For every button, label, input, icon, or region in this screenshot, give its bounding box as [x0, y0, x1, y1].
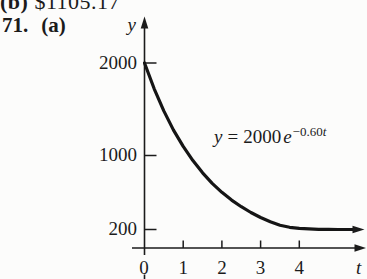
x-tick-label-0: 0: [139, 257, 149, 278]
equation-var: y: [212, 126, 223, 147]
equation-exponent-var: t: [323, 124, 327, 139]
equation-equals: =: [227, 126, 238, 147]
curve-arrow-icon: [353, 226, 365, 234]
x-axis-arrow-icon: [355, 244, 367, 252]
y-axis-label: y: [126, 14, 137, 35]
y-tick-label-200: 200: [109, 218, 138, 239]
x-axis-label: t: [356, 257, 362, 278]
y-axis-arrow-icon: [141, 17, 149, 29]
exponential-decay-graph: 2000 1000 200 0 1 2 3 4 y t y=2000e−0.60…: [0, 0, 367, 279]
equation-label: y=2000e−0.60t: [212, 124, 327, 147]
x-tick-label-3: 3: [256, 257, 266, 278]
x-tick-label-1: 1: [178, 257, 188, 278]
equation-base: e: [283, 126, 291, 147]
y-tick-label-1000: 1000: [99, 144, 137, 165]
x-tick-label-2: 2: [217, 257, 227, 278]
y-tick-label-2000: 2000: [99, 52, 137, 73]
equation-coefficient: 2000: [243, 126, 281, 147]
equation-exponent-coeff: −0.60: [293, 124, 323, 139]
x-tick-label-4: 4: [295, 257, 305, 278]
